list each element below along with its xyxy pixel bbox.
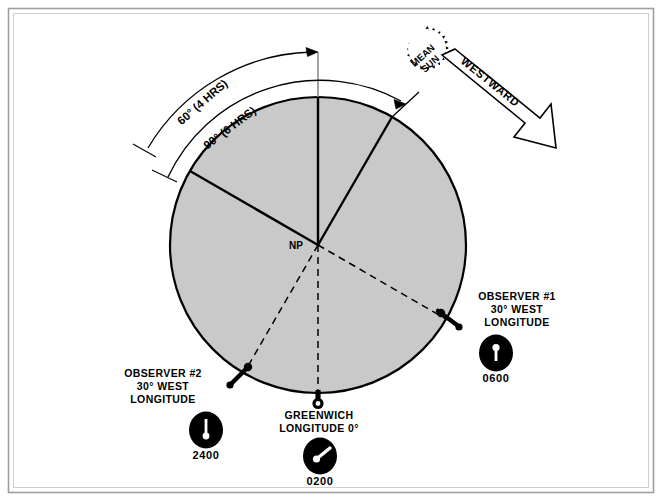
figure-root: NP MEAN SUN WESTWARD 60 (0, 0, 662, 502)
observer-1-label-line-2: 30° WEST (491, 303, 544, 315)
observer-1-clock-time: 0600 (483, 372, 510, 384)
greenwich-label-line-2: LONGITUDE 0° (279, 422, 359, 434)
observer-1-clock (479, 335, 513, 372)
observer-2-clock-time: 2400 (193, 449, 220, 461)
observer-2-label-line-3: LONGITUDE (130, 393, 195, 405)
diagram-canvas: NP MEAN SUN WESTWARD 60 (0, 0, 662, 502)
observer-2-label-line-1: OBSERVER #2 (124, 367, 202, 379)
observer-1-label-line-3: LONGITUDE (484, 316, 549, 328)
observer-2-label-line-2: 30° WEST (137, 380, 190, 392)
observer-2-clock (189, 412, 223, 449)
observer-1-label-line-1: OBSERVER #1 (478, 290, 556, 302)
greenwich-label-line-1: GREENWICH (285, 409, 354, 421)
greenwich-clock-time: 0200 (307, 475, 334, 487)
greenwich-clock (303, 438, 337, 475)
north-pole-label: NP (289, 240, 303, 251)
